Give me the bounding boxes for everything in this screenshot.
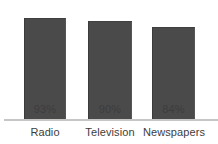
x-axis-category-labels: Radio Television Newspapers: [0, 124, 218, 144]
bar-value-radio: 93%: [34, 103, 57, 116]
bar-value-television: 90%: [99, 103, 122, 116]
bar-value-newspapers: 84%: [162, 103, 185, 116]
x-axis-baseline: [4, 119, 218, 121]
plot-area: 93% 90% 84%: [0, 0, 218, 121]
bar-series: 93% 90% 84%: [0, 0, 218, 119]
category-label-newspapers: Newspapers: [135, 124, 213, 140]
bar-chart: 93% 90% 84% Radio Television Newspapers: [0, 0, 218, 144]
